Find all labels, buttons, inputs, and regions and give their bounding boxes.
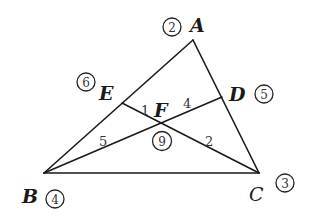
circled-number-e-text: 6: [82, 76, 90, 90]
angle-label-1: 1: [141, 103, 149, 118]
angle-label-4: 4: [183, 96, 191, 111]
circled-number-c: 3: [276, 174, 294, 192]
angle-label-2: 2: [205, 134, 213, 149]
circled-number-f: 9: [153, 132, 172, 151]
segment-ab: [44, 40, 193, 173]
point-label-f: F: [153, 99, 169, 121]
angle-label-5: 5: [99, 134, 107, 149]
circled-number-a-text: 2: [168, 21, 176, 35]
circled-number-e: 6: [77, 73, 95, 91]
circled-number-c-text: 3: [281, 177, 289, 191]
circled-number-b: 4: [46, 190, 64, 208]
circled-number-b-text: 4: [51, 193, 59, 207]
circled-number-d: 5: [255, 85, 273, 103]
point-label-a: A: [188, 14, 205, 36]
circled-number-d-text: 5: [260, 88, 268, 102]
point-label-e: E: [98, 82, 114, 104]
point-label-b: B: [21, 185, 38, 207]
circled-number-a: 2: [163, 18, 181, 36]
circled-number-f-text: 9: [158, 135, 166, 149]
segment-ac: [193, 40, 259, 173]
point-label-c: C: [249, 183, 264, 205]
triangle-diagram: A B C D E F 2 4 3 5 6 9 1 4 5 2: [0, 0, 313, 223]
point-label-d: D: [228, 83, 246, 105]
